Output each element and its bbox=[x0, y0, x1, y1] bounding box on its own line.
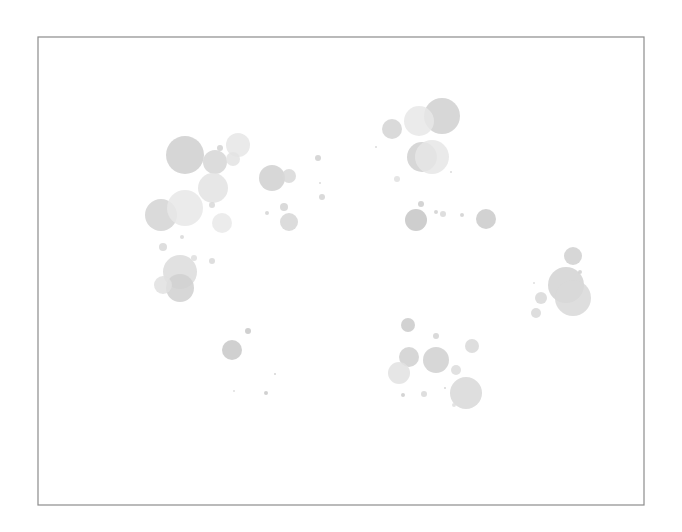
bubble-point bbox=[226, 152, 240, 166]
bubble-point bbox=[217, 145, 223, 151]
bubble-point bbox=[421, 391, 427, 397]
bubble-point bbox=[166, 136, 204, 174]
bubble-point bbox=[415, 140, 449, 174]
bubble-point bbox=[394, 176, 400, 182]
bubble-point bbox=[451, 365, 461, 375]
bubble-point bbox=[212, 213, 232, 233]
bubble-point bbox=[209, 202, 215, 208]
bubble-point bbox=[259, 165, 285, 191]
bubble-point bbox=[401, 393, 405, 397]
bubble-point bbox=[222, 340, 242, 360]
bubble-point bbox=[533, 282, 535, 284]
bubble-point bbox=[203, 150, 227, 174]
bubble-point bbox=[535, 292, 547, 304]
bubble-point bbox=[265, 211, 269, 215]
bubble-point bbox=[382, 119, 402, 139]
bubble-point bbox=[274, 373, 276, 375]
bubble-point bbox=[531, 308, 541, 318]
bubble-point bbox=[444, 387, 446, 389]
bubble-point bbox=[264, 391, 268, 395]
bubble-point bbox=[452, 403, 456, 407]
bubble-point bbox=[154, 276, 172, 294]
bubble-point bbox=[405, 209, 427, 231]
bubble-chart bbox=[0, 0, 682, 532]
bubble-point bbox=[450, 171, 452, 173]
bubble-point bbox=[159, 243, 167, 251]
bubble-point bbox=[280, 213, 298, 231]
bubble-point bbox=[191, 255, 197, 261]
bubble-point bbox=[433, 333, 439, 339]
bubble-point bbox=[578, 270, 582, 274]
bubble-point bbox=[404, 106, 434, 136]
bubble-point bbox=[245, 328, 251, 334]
bubble-point bbox=[434, 210, 438, 214]
bubble-point bbox=[180, 235, 184, 239]
bubble-point bbox=[375, 146, 377, 148]
bubble-point bbox=[423, 347, 449, 373]
bubble-point bbox=[401, 318, 415, 332]
bubble-point bbox=[564, 247, 582, 265]
bubble-point bbox=[460, 213, 464, 217]
bubble-point bbox=[319, 182, 321, 184]
bubble-point bbox=[282, 169, 296, 183]
bubble-point bbox=[209, 258, 215, 264]
bubble-point bbox=[555, 280, 591, 316]
bubble-point bbox=[476, 209, 496, 229]
bubble-point bbox=[418, 201, 424, 207]
bubble-point bbox=[233, 390, 235, 392]
bubble-point bbox=[315, 155, 321, 161]
bubble-point bbox=[319, 194, 325, 200]
plot-frame bbox=[38, 37, 644, 505]
bubble-point bbox=[167, 190, 203, 226]
bubble-point bbox=[388, 362, 410, 384]
bubble-point bbox=[440, 211, 446, 217]
bubble-point bbox=[198, 173, 228, 203]
bubble-point bbox=[465, 339, 479, 353]
bubble-point bbox=[280, 203, 288, 211]
